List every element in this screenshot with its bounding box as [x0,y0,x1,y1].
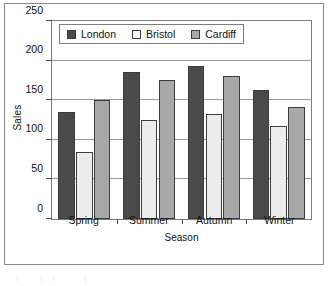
x-axis-tick [117,219,118,224]
bar-autumn-cardiff [223,76,239,219]
y-axis-tick-label: 150 [25,83,43,95]
legend-label-london: London [81,28,116,40]
bar-winter-bristol [270,126,286,219]
x-axis-label-spring: Spring [68,214,98,226]
legend-label-bristol: Bristol [146,28,175,40]
y-axis-tick-label: 200 [25,43,43,55]
chart-legend: LondonBristolCardiff [59,24,244,44]
bar-spring-london [58,112,74,219]
legend-entry-london: London [67,28,116,40]
y-axis-tick-label: 0 [37,202,43,214]
bar-autumn-bristol [206,114,222,219]
x-axis-tick [246,219,247,224]
y-axis-tick-label: 50 [31,162,43,174]
x-axis-label-winter: Winter [264,214,294,226]
legend-label-cardiff: Cardiff [205,28,236,40]
bar-spring-cardiff [94,100,110,219]
bar-winter-london [253,90,269,219]
bar-group-winter [246,21,311,219]
legend-entry-cardiff: Cardiff [191,28,236,40]
bar-summer-london [123,72,139,219]
legend-swatch-bristol [132,30,141,39]
bar-group-autumn [182,21,247,219]
bar-chart-figure: Sales 050100150200250 SpringSummerAutumn… [4,3,324,265]
bar-autumn-london [188,66,204,219]
x-axis-title: Season [51,232,312,243]
x-axis-label-autumn: Autumn [196,214,232,226]
plot-area: 050100150200250 [51,20,312,220]
legend-entry-bristol: Bristol [132,28,175,40]
x-axis-label-summer: Summer [129,214,169,226]
y-axis-tick-label: 250 [25,4,43,16]
bar-group-spring [52,21,117,219]
legend-swatch-cardiff [191,30,200,39]
x-axis-tick [182,219,183,224]
legend-swatch-london [67,30,76,39]
bar-summer-bristol [141,120,157,219]
bar-summer-cardiff [159,80,175,219]
bars-layer [52,21,311,219]
y-axis-tick-label: 100 [25,122,43,134]
bar-group-summer [117,21,182,219]
bar-spring-bristol [76,152,92,219]
scan-artifact [11,276,161,282]
y-axis-title: Sales [12,88,23,148]
bar-winter-cardiff [288,107,304,219]
